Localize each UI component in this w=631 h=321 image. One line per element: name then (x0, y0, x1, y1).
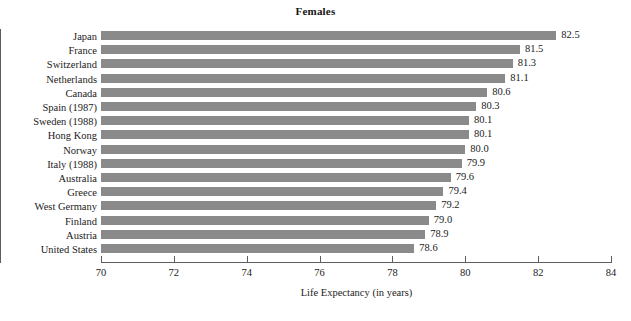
bar-row: 80.1 (101, 128, 611, 142)
category-label: Sweden (1988) (1, 115, 97, 128)
bar-row: 80.3 (101, 100, 611, 114)
bar-row: 79.0 (101, 214, 611, 228)
bar-value-label: 79.0 (434, 213, 452, 226)
bar-value-label: 79.2 (441, 198, 459, 211)
bar-row: 79.4 (101, 185, 611, 199)
bar (101, 173, 451, 182)
bar-row: 79.9 (101, 157, 611, 171)
bar (101, 45, 520, 54)
x-tick (247, 256, 248, 262)
x-tick-label: 70 (81, 266, 121, 279)
x-tick-label: 80 (445, 266, 485, 279)
x-tick (320, 256, 321, 262)
category-label: Italy (1988) (1, 158, 97, 171)
bar (101, 159, 462, 168)
x-tick-label: 78 (372, 266, 412, 279)
x-tick-label: 76 (300, 266, 340, 279)
x-axis-title: Life Expectancy (in years) (101, 287, 612, 298)
bar-row: 79.6 (101, 171, 611, 185)
x-tick (101, 256, 102, 262)
bar (101, 74, 505, 83)
bar-row: 81.3 (101, 57, 611, 71)
x-tick-label: 74 (227, 266, 267, 279)
category-label: Greece (1, 186, 97, 199)
bar-chart: Females JapanFranceSwitzerlandNetherland… (0, 0, 631, 321)
bar (101, 201, 436, 210)
category-label: Finland (1, 215, 97, 228)
bar (101, 88, 487, 97)
x-tick (392, 256, 393, 262)
bar-row: 79.2 (101, 199, 611, 213)
value-axis-ticks (101, 256, 612, 262)
x-tick-label: 72 (154, 266, 194, 279)
category-label: Spain (1987) (1, 101, 97, 114)
bar (101, 244, 414, 253)
bar-row: 81.1 (101, 72, 611, 86)
bar-row: 78.6 (101, 242, 611, 256)
bar-row: 82.5 (101, 29, 611, 43)
x-tick (611, 256, 612, 262)
bar (101, 145, 465, 154)
x-tick-label: 82 (518, 266, 558, 279)
bar-value-label: 80.1 (474, 113, 492, 126)
bar (101, 187, 443, 196)
bar (101, 216, 429, 225)
bar-value-label: 81.5 (525, 42, 543, 55)
bar (101, 102, 476, 111)
category-label: Netherlands (1, 73, 97, 86)
category-label: Norway (1, 144, 97, 157)
category-label: France (1, 44, 97, 57)
bar-value-label: 79.9 (467, 156, 485, 169)
bar (101, 59, 513, 68)
bar-row: 80.6 (101, 86, 611, 100)
bar (101, 116, 469, 125)
value-axis-line (101, 262, 612, 263)
chart-title: Females (0, 5, 631, 17)
bar (101, 31, 556, 40)
category-axis-line (0, 29, 1, 263)
category-label: Japan (1, 30, 97, 43)
category-label: West Germany (1, 200, 97, 213)
category-axis-labels: JapanFranceSwitzerlandNetherlandsCanadaS… (0, 29, 97, 263)
bar-value-label: 78.6 (419, 241, 437, 254)
bar-value-label: 80.1 (474, 127, 492, 140)
x-tick (538, 256, 539, 262)
x-tick-label: 84 (591, 266, 631, 279)
bar-value-label: 79.6 (456, 170, 474, 183)
bar-value-label: 78.9 (430, 227, 448, 240)
bar-value-label: 80.0 (470, 142, 488, 155)
category-label: Australia (1, 172, 97, 185)
plot-area: 82.581.581.381.180.680.380.180.180.079.9… (101, 29, 611, 262)
bar (101, 230, 425, 239)
bar-value-label: 81.3 (518, 56, 536, 69)
category-label: United States (1, 243, 97, 256)
bar-value-label: 82.5 (561, 28, 579, 41)
category-label: Canada (1, 87, 97, 100)
bar-row: 80.0 (101, 143, 611, 157)
category-label: Switzerland (1, 58, 97, 71)
bar-row: 80.1 (101, 114, 611, 128)
bar-row: 78.9 (101, 228, 611, 242)
bar-value-label: 80.3 (481, 99, 499, 112)
category-label: Austria (1, 229, 97, 242)
category-label: Hong Kong (1, 129, 97, 142)
bar-value-label: 80.6 (492, 85, 510, 98)
bar-row: 81.5 (101, 43, 611, 57)
bar (101, 130, 469, 139)
value-axis-tick-labels: 7072747678808284 (101, 266, 612, 280)
x-tick (465, 256, 466, 262)
bar-value-label: 79.4 (448, 184, 466, 197)
x-tick (174, 256, 175, 262)
bar-value-label: 81.1 (510, 71, 528, 84)
